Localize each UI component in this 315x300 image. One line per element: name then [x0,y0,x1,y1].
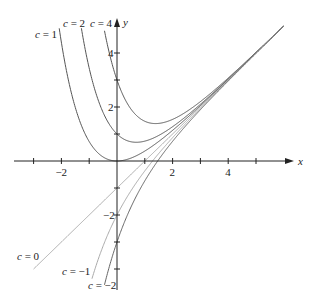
curve-c1 [59,26,283,161]
y-tick-label: −2 [103,209,115,221]
curve-label: c = 1 [35,28,57,40]
curve-cneg2 [104,26,283,285]
curve-label: c = 0 [17,250,40,262]
x-tick-label: 2 [170,166,176,178]
curve-label: c = −2 [88,279,116,291]
y-tick-label: 4 [108,47,114,59]
x-tick-label: −2 [55,166,67,178]
curve-c4 [104,26,283,123]
x-axis-arrow-icon [285,158,294,164]
curve-label: c = −1 [62,265,90,277]
plot-area: −224 −224 x y c = 1c = 2c = 4c = 0c = −1… [0,0,315,300]
x-axis-label: x [297,155,303,167]
y-axis-arrow-icon [114,18,120,27]
curve-cneg1 [92,26,284,279]
y-axis-label: y [122,16,128,28]
x-tick-label: 4 [225,166,231,178]
curve-label: c = 2 [63,17,85,29]
curve-label: c = 4 [90,17,113,29]
solution-curves [34,26,284,285]
y-tick-label: 2 [108,101,114,113]
